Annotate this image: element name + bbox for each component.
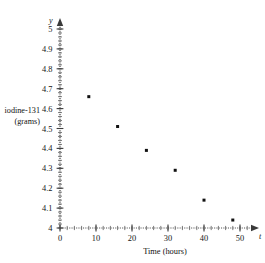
- y-axis-variable-label: y: [48, 16, 53, 25]
- data-point: [174, 169, 177, 172]
- y-axis-tick-label: 5: [48, 25, 52, 34]
- tick-labels-layer: 0102030405044.14.24.34.44.54.64.74.84.95: [42, 25, 244, 243]
- y-axis-title-line-1: iodine-131: [5, 106, 40, 115]
- y-axis-tick-label: 4.9: [42, 45, 52, 54]
- x-axis-title: Time (hours): [143, 247, 187, 256]
- data-point: [87, 95, 90, 98]
- x-axis-tick-label: 20: [128, 234, 136, 243]
- y-axis-tick-label: 4.5: [42, 125, 52, 134]
- scatter-plot: 0102030405044.14.24.34.44.54.64.74.84.95…: [0, 0, 265, 263]
- data-point: [145, 149, 148, 152]
- y-axis-tick-label: 4.2: [42, 184, 52, 193]
- x-axis-tick-label: 10: [92, 234, 100, 243]
- data-point: [203, 199, 206, 202]
- x-axis-tick-label: 40: [200, 234, 208, 243]
- y-axis-tick-label: 4.7: [42, 85, 52, 94]
- x-axis-variable-label: t: [259, 232, 262, 241]
- y-axis-tick-label: 4.3: [42, 164, 52, 173]
- chart-screenshot: 0102030405044.14.24.34.44.54.64.74.84.95…: [0, 0, 265, 263]
- data-point: [116, 125, 119, 128]
- y-axis-tick-label: 4.6: [42, 105, 52, 114]
- y-axis-arrow-icon: [57, 18, 63, 26]
- data-points-layer: [87, 95, 234, 221]
- x-axis-arrow-icon: [251, 225, 259, 231]
- axes-layer: [57, 18, 259, 231]
- y-axis-tick-label: 4.8: [42, 65, 52, 74]
- x-axis-tick-label: 50: [236, 234, 244, 243]
- x-axis-tick-label: 0: [58, 234, 62, 243]
- y-axis-title-line-2: (grams): [15, 117, 41, 126]
- x-axis-tick-label: 30: [164, 234, 172, 243]
- y-axis-tick-label: 4.4: [42, 144, 53, 153]
- y-axis-tick-label: 4.1: [42, 204, 52, 213]
- y-axis-tick-label: 4: [48, 224, 53, 233]
- data-point: [231, 219, 234, 222]
- ticks-layer: [57, 29, 248, 231]
